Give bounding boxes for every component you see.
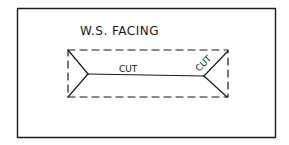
cut-line-left-top [68,50,88,74]
facing-diagram: W.S. FACING CUT CUT [0,0,289,145]
diagram-title: W.S. FACING [80,24,159,38]
cut-line-right-bottom [204,76,227,97]
cut-line-center [88,74,204,76]
cut-label-corner: CUT [193,53,213,73]
cut-label-center: CUT [119,64,138,74]
cut-line-left-bottom [68,74,88,97]
